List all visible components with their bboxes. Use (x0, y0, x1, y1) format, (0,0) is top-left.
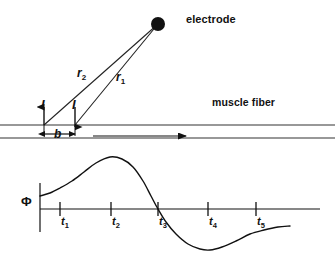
tick-label-subscript-5: 5 (261, 221, 265, 230)
tick-label-subscript-3: 3 (163, 221, 167, 230)
tick-label-t1: t1 (61, 216, 69, 230)
upper-panel-geometry (0, 17, 335, 138)
tick-label-t4: t4 (209, 216, 217, 230)
tick-label-t5: t5 (257, 216, 265, 230)
muscle-fiber-potential-figure (0, 0, 335, 273)
distance-label-r1: r1 (116, 71, 125, 86)
distance-label-r2-subscript: 2 (82, 73, 86, 82)
distance-label-r2: r2 (77, 67, 86, 82)
extracellular-potential-curve (40, 157, 290, 250)
distance-line-r2 (44, 24, 158, 125)
electrode-label: electrode (186, 14, 236, 25)
tick-label-subscript-2: 2 (116, 221, 120, 230)
current-sink-label: I (72, 98, 76, 111)
tick-label-subscript-4: 4 (213, 221, 217, 230)
current-source-label: I (41, 98, 45, 111)
muscle-fiber-label: muscle fiber (212, 97, 275, 108)
potential-axis-label: Φ (21, 195, 32, 208)
tick-label-t3: t3 (159, 216, 167, 230)
dipole-separation-label: b (54, 128, 61, 140)
tick-label-t2: t2 (112, 216, 120, 230)
tick-label-subscript-1: 1 (65, 221, 69, 230)
electrode-point-marker (151, 17, 165, 31)
lower-panel-plot (40, 157, 320, 250)
distance-label-r1-subscript: 1 (121, 77, 125, 86)
